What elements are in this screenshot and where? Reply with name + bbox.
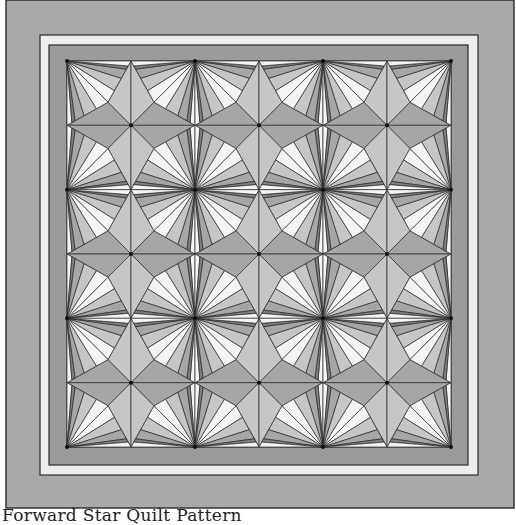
quilt-caption: Forward Star Quilt Pattern	[2, 505, 242, 525]
